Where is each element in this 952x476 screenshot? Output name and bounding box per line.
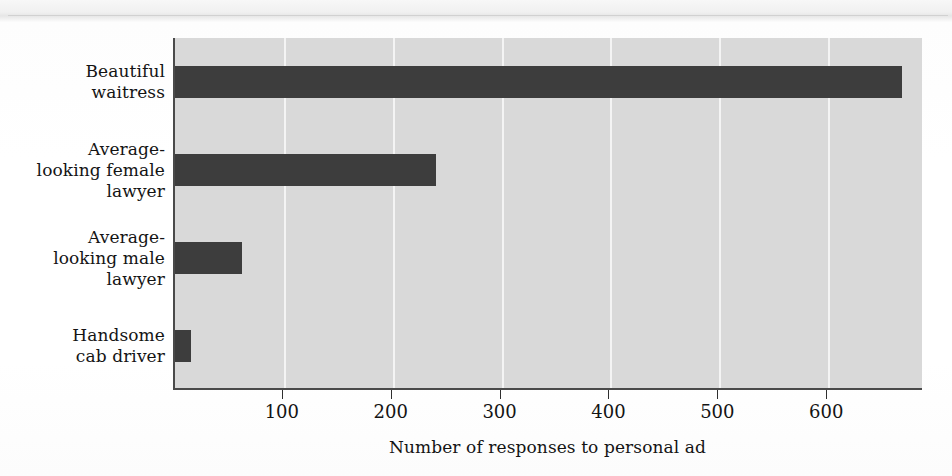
category-label-line: Average- (0, 139, 165, 160)
x-tick-label: 100 (242, 401, 322, 423)
category-label: Average-looking femalelawyer (0, 139, 165, 202)
x-tick-label: 200 (351, 401, 431, 423)
category-label-line: looking female (0, 160, 165, 181)
x-tick-label: 400 (568, 401, 648, 423)
category-label: Beautifulwaitress (0, 61, 165, 103)
category-label-line: waitress (0, 82, 165, 103)
category-axis-labels: BeautifulwaitressAverage-looking femalel… (0, 38, 165, 390)
category-label-line: Beautiful (0, 61, 165, 82)
x-axis-ticks: 100200300400500600 (173, 390, 922, 400)
bar-series (175, 38, 922, 388)
bar (175, 330, 191, 362)
x-tick-mark (391, 390, 392, 399)
x-tick-mark (717, 390, 718, 399)
category-label-line: lawyer (0, 269, 165, 290)
category-label-line: Handsome (0, 325, 165, 346)
x-tick-mark (608, 390, 609, 399)
category-label: Handsomecab driver (0, 325, 165, 367)
x-tick-mark (826, 390, 827, 399)
bar (175, 154, 436, 186)
category-label-line: cab driver (0, 346, 165, 367)
x-tick-mark (282, 390, 283, 399)
x-axis-title: Number of responses to personal ad (173, 437, 922, 458)
plot-area (173, 38, 922, 390)
bar-chart: BeautifulwaitressAverage-looking femalel… (0, 0, 952, 476)
x-tick-label: 600 (786, 401, 866, 423)
category-label-line: looking male (0, 248, 165, 269)
x-tick-mark (500, 390, 501, 399)
bar (175, 66, 902, 98)
x-tick-label: 300 (460, 401, 540, 423)
category-label-line: lawyer (0, 181, 165, 202)
x-tick-label: 500 (677, 401, 757, 423)
category-label-line: Average- (0, 227, 165, 248)
bar (175, 242, 242, 274)
category-label: Average-looking malelawyer (0, 227, 165, 290)
